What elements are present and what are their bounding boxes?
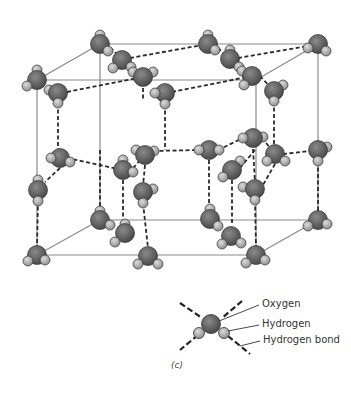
water-molecule xyxy=(218,156,245,182)
water-molecule xyxy=(309,141,333,167)
legend-hydrogen-atom xyxy=(219,328,230,339)
hydrogen-atom xyxy=(40,255,50,265)
hydrogen-atom xyxy=(303,43,313,53)
hydrogen-bond-line xyxy=(143,203,148,248)
legend-label-hydrogen-bond: Hydrogen bond xyxy=(263,334,340,345)
legend-water-molecule xyxy=(180,301,260,354)
hydrogen-atom xyxy=(194,145,204,155)
hydrogen-atom xyxy=(160,99,170,109)
hydrogen-atom xyxy=(22,81,32,91)
legend-leader-line xyxy=(219,305,259,321)
hydrogen-bond-line xyxy=(263,164,275,185)
hydrogen-atom xyxy=(217,239,227,249)
legend-hbond-line xyxy=(180,303,202,318)
hydrogen-atom xyxy=(280,156,290,166)
water-molecule xyxy=(194,141,224,160)
hydrogen-atom xyxy=(250,195,260,205)
hydrogen-atom xyxy=(213,221,223,231)
oxygen-atom xyxy=(136,146,155,165)
water-molecule xyxy=(199,30,221,55)
frame-edge xyxy=(37,44,100,80)
oxygen-atom xyxy=(134,68,153,87)
water-molecule xyxy=(238,129,268,148)
hydrogen-atom xyxy=(236,238,246,248)
hydrogen-atom xyxy=(260,255,270,265)
hydrogen-atom xyxy=(239,80,249,90)
hydrogen-atom xyxy=(133,259,143,269)
hydrogen-atom xyxy=(210,45,220,55)
water-molecules xyxy=(22,30,332,269)
water-molecule xyxy=(46,149,75,168)
water-molecule xyxy=(303,211,332,232)
hydrogen-atom xyxy=(128,167,138,177)
hydrogen-atom xyxy=(241,258,251,268)
water-molecule xyxy=(150,84,175,110)
water-molecule xyxy=(303,35,331,57)
hydrogen-atom xyxy=(262,156,272,166)
legend-hbond-line xyxy=(228,336,250,354)
hydrogen-atom xyxy=(321,46,331,56)
hydrogen-atom xyxy=(105,220,115,230)
legend-hydrogen-atom xyxy=(194,328,205,339)
water-molecule xyxy=(23,246,50,267)
water-molecule xyxy=(262,145,290,167)
water-molecule xyxy=(22,65,47,91)
hydrogen-atom xyxy=(138,198,148,208)
hydrogen-atom xyxy=(238,133,248,143)
hydrogen-bond-line xyxy=(253,149,255,182)
hydrogen-atom xyxy=(53,98,63,108)
water-molecule xyxy=(114,155,139,180)
hydrogen-atom xyxy=(313,156,323,166)
water-molecule xyxy=(134,183,159,209)
hydrogen-bond-line xyxy=(153,150,200,151)
hydrogen-atom xyxy=(322,219,332,229)
hydrogen-bond-line xyxy=(130,44,208,58)
water-molecule xyxy=(131,145,159,165)
hydrogen-atom xyxy=(33,196,43,206)
frame-edge xyxy=(37,220,100,255)
water-molecule xyxy=(91,30,114,56)
water-molecule xyxy=(265,80,289,106)
water-molecule xyxy=(133,247,163,270)
hydrogen-atom xyxy=(46,153,56,163)
hydrogen-atom xyxy=(150,88,160,98)
water-molecule xyxy=(44,84,68,109)
hydrogen-atom xyxy=(214,145,224,155)
hydrogen-bond-line xyxy=(45,168,60,182)
legend-label-hydrogen: Hydrogen xyxy=(262,318,311,329)
water-molecule xyxy=(29,175,48,206)
water-molecule xyxy=(201,204,224,231)
hydrogen-atom xyxy=(110,237,120,247)
legend-leader-line xyxy=(240,341,260,346)
water-molecule xyxy=(237,66,262,90)
hydrogen-atom xyxy=(269,96,279,106)
hydrogen-atom xyxy=(65,157,75,167)
hydrogen-atom xyxy=(303,221,313,231)
hydrogen-atom xyxy=(103,46,113,56)
legend-leader-line xyxy=(228,325,259,331)
water-molecule xyxy=(238,180,265,206)
figure-caption: (c) xyxy=(171,360,183,370)
water-molecule xyxy=(128,67,158,87)
hydrogen-atom xyxy=(108,63,118,73)
legend-label-oxygen: Oxygen xyxy=(262,298,301,309)
water-molecule xyxy=(91,206,116,230)
hydrogen-atom xyxy=(218,172,228,182)
hydrogen-atom xyxy=(153,259,163,269)
hydrogen-atom xyxy=(23,256,33,266)
hydrogen-bond-line xyxy=(67,77,143,92)
